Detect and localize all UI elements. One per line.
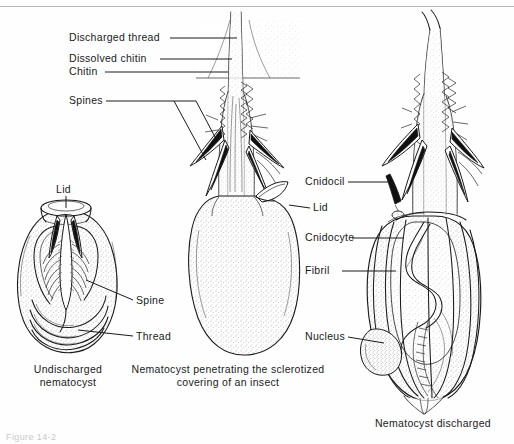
caption-undischarged-line1: Undischarged <box>6 363 130 376</box>
caption-undischarged: Undischarged nematocyst <box>6 363 130 389</box>
caption-discharged: Nematocyst discharged <box>358 417 508 430</box>
label-nucleus: Nucleus <box>305 330 345 342</box>
leader-lid-middle <box>289 205 310 208</box>
undischarged-nematocyst-group <box>18 200 118 353</box>
caption-discharged-line1: Nematocyst discharged <box>358 417 508 430</box>
label-discharged-thread: Discharged thread <box>69 31 160 43</box>
caption-undischarged-line2: nematocyst <box>6 376 130 389</box>
label-spine-left: Spine <box>136 294 164 306</box>
label-spines: Spines <box>69 94 103 106</box>
caption-penetrating-line1: Nematocyst penetrating the sclerotized <box>114 363 342 376</box>
label-fibril: Fibril <box>305 264 330 276</box>
middle-capsule-group <box>189 182 300 355</box>
chitin-layer-group <box>196 20 300 78</box>
caption-penetrating-line2: covering of an insect <box>114 376 342 389</box>
label-thread-left: Thread <box>136 330 171 342</box>
label-chitin: Chitin <box>69 65 98 77</box>
label-dissolved-chitin: Dissolved chitin <box>69 52 147 64</box>
figure-number: Figure 14-2 <box>6 432 56 442</box>
label-lid-left: Lid <box>56 183 71 195</box>
label-cnidocyte: Cnidocyte <box>305 231 354 243</box>
label-lid-middle: Lid <box>313 201 328 213</box>
label-cnidocil: Cnidocil <box>305 175 345 187</box>
discharged-nematocyst-group <box>360 10 484 414</box>
caption-penetrating: Nematocyst penetrating the sclerotized c… <box>114 363 342 389</box>
scan-page: Discharged thread Dissolved chitin Chiti… <box>0 0 514 444</box>
